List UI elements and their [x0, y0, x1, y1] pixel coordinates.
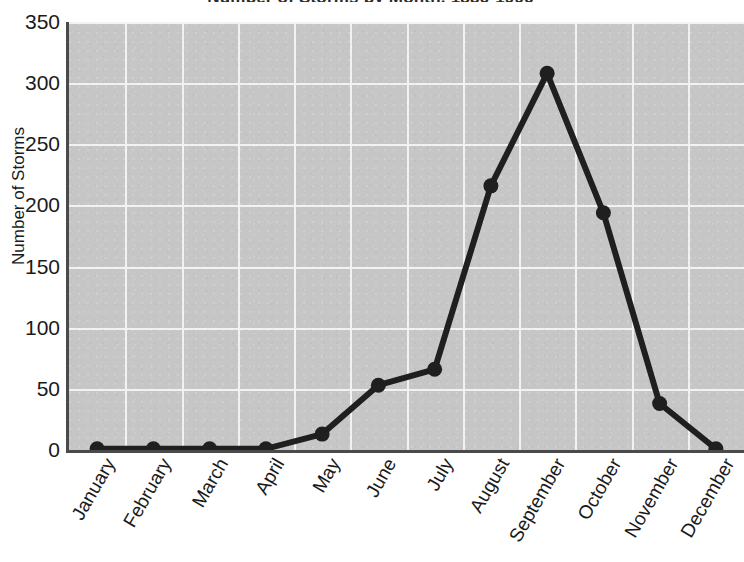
- data-series-line: [69, 22, 744, 450]
- x-tick-label: October: [575, 455, 626, 524]
- x-tick-label: May: [309, 455, 344, 496]
- plot-area: [66, 22, 744, 453]
- series-polyline: [97, 73, 716, 448]
- x-tick-label: November: [621, 455, 682, 541]
- chart-title: Number of Storms by Month, 1886-1996: [0, 0, 741, 2]
- x-tick-label: September: [506, 455, 570, 545]
- y-tick-label: 300: [2, 72, 60, 93]
- data-point-marker: [483, 178, 498, 193]
- data-point-marker: [258, 441, 273, 450]
- x-tick-label: April: [252, 455, 288, 498]
- x-tick-label: December: [677, 455, 738, 541]
- y-tick-label: 200: [2, 194, 60, 215]
- data-point-marker: [652, 396, 667, 411]
- x-tick-label: January: [68, 455, 119, 524]
- y-tick-label: 350: [2, 11, 60, 32]
- y-axis-tick-labels: 050100150200250300350: [0, 22, 60, 450]
- y-tick-label: 100: [2, 317, 60, 338]
- data-point-marker: [596, 205, 611, 220]
- y-tick-label: 150: [2, 256, 60, 277]
- data-point-marker: [90, 441, 105, 450]
- x-tick-label: June: [363, 455, 401, 501]
- data-point-marker: [202, 441, 217, 450]
- data-point-marker: [315, 427, 330, 442]
- x-tick-label: March: [188, 455, 232, 511]
- data-point-marker: [540, 66, 555, 81]
- data-point-marker: [427, 362, 442, 377]
- x-axis-tick-labels: JanuaryFebruaryMarchAprilMayJuneJulyAugu…: [66, 455, 741, 562]
- x-tick-label: July: [423, 455, 457, 494]
- data-point-marker: [146, 441, 161, 450]
- y-tick-label: 50: [2, 378, 60, 399]
- y-tick-label: 250: [2, 133, 60, 154]
- series-markers: [90, 66, 724, 450]
- x-tick-label: February: [120, 455, 175, 531]
- data-point-marker: [371, 378, 386, 393]
- y-tick-label: 0: [2, 439, 60, 460]
- x-tick-label: August: [466, 455, 513, 516]
